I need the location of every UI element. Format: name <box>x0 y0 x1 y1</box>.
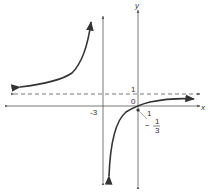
graph-figure: y x 0 1 1 -3 − 1 3 <box>0 0 208 192</box>
y-axis-label: y <box>134 1 140 10</box>
x-axis-label: x <box>200 103 206 112</box>
y-tick-1-label: 1 <box>131 85 136 94</box>
y-intercept-sign: − <box>145 121 150 130</box>
curve-left-branch <box>20 22 91 87</box>
curve-right-branch <box>109 99 194 176</box>
y-intercept-numerator: 1 <box>155 117 160 126</box>
y-intercept-denominator: 3 <box>155 126 160 135</box>
origin-label: 0 <box>131 97 136 106</box>
y-intercept-leader <box>139 111 147 119</box>
x-tick-1-label: 1 <box>147 109 152 118</box>
graph-svg: y x 0 1 1 -3 − 1 3 <box>0 0 208 192</box>
x-tick-neg3-label: -3 <box>90 108 98 117</box>
